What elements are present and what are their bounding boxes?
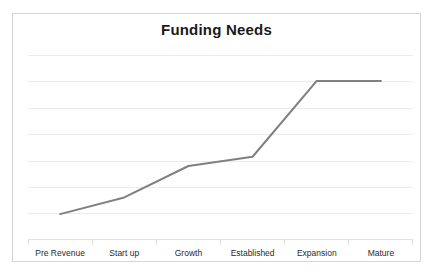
series-line-funding-needs (28, 55, 413, 240)
plot-area (28, 55, 413, 240)
axis-label-mature: Mature (349, 244, 413, 262)
chart-container: Funding Needs Pre Revenue Start up Growt… (12, 13, 421, 262)
axis-label-start-up: Start up (92, 244, 156, 262)
axis-label-expansion: Expansion (285, 244, 349, 262)
axis-label-growth: Growth (156, 244, 220, 262)
axis-label-established: Established (221, 244, 285, 262)
chart-title: Funding Needs (13, 21, 420, 38)
category-axis-labels: Pre Revenue Start up Growth Established … (28, 244, 413, 262)
axis-label-pre-revenue: Pre Revenue (28, 244, 92, 262)
